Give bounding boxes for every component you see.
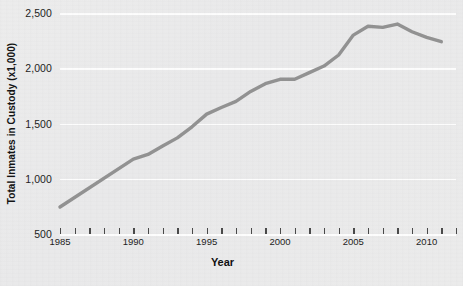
x-axis-tick-mark: [207, 228, 208, 234]
x-axis-tick-mark: [148, 228, 149, 234]
x-axis-tick-mark: [324, 228, 325, 234]
y-axis-tick-label: 1,000: [25, 173, 52, 185]
x-axis-tick-label: 1985: [49, 236, 70, 247]
y-axis-tick-label: 1,500: [25, 118, 52, 130]
x-axis-tick-mark: [236, 228, 237, 234]
x-axis-tick-label: 2010: [416, 236, 437, 247]
x-axis-title: Year: [0, 256, 463, 268]
x-axis-tick-mark: [280, 228, 281, 234]
x-axis-tick-mark: [119, 228, 120, 234]
x-axis-tick-labels: 198519901995200020052010: [0, 236, 463, 250]
x-axis-tick-mark: [265, 228, 266, 234]
x-axis-tick-mark: [397, 228, 398, 234]
x-axis-tick-label: 2000: [269, 236, 290, 247]
line-chart: Total Inmates in Custody (x1,000) 2,5002…: [0, 0, 463, 286]
x-axis-tick-mark: [75, 228, 76, 234]
x-axis-tick-mark: [60, 228, 61, 234]
x-axis-tick-label: 1995: [196, 236, 217, 247]
x-axis-tick-mark: [177, 228, 178, 234]
x-axis-tick-mark: [104, 228, 105, 234]
series-polyline: [60, 24, 441, 207]
y-axis-tick-label: 2,000: [25, 62, 52, 74]
x-axis-tick-mark: [383, 228, 384, 234]
plot-area: [60, 13, 456, 234]
x-axis-tick-label: 1990: [123, 236, 144, 247]
x-axis-tick-mark: [133, 228, 134, 234]
x-axis-tick-mark: [427, 228, 428, 234]
x-axis-tick-label: 2005: [343, 236, 364, 247]
x-axis-tick-mark: [251, 228, 252, 234]
x-axis-tick-mark: [339, 228, 340, 234]
y-axis-tick-labels: 2,5002,0001,5001,000500: [0, 13, 56, 234]
x-axis-tick-mark: [163, 228, 164, 234]
x-axis-tick-mark: [192, 228, 193, 234]
x-axis-tick-marks: [60, 228, 456, 235]
x-axis-tick-mark: [221, 228, 222, 234]
y-axis-tick-label: 2,500: [25, 7, 52, 19]
x-axis-tick-mark: [353, 228, 354, 234]
x-axis-tick-mark: [368, 228, 369, 234]
x-axis-tick-mark: [456, 228, 457, 234]
data-series-line: [60, 13, 456, 234]
x-axis-tick-mark: [295, 228, 296, 234]
x-axis-title-label: Year: [211, 256, 234, 268]
x-axis-tick-mark: [412, 228, 413, 234]
x-axis-tick-mark: [441, 228, 442, 234]
x-axis-tick-mark: [309, 228, 310, 234]
x-axis-tick-mark: [89, 228, 90, 234]
